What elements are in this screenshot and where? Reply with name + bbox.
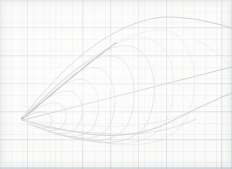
curve-lens-rib-2 xyxy=(22,103,66,131)
apex-point xyxy=(21,117,23,119)
sketch-canvas xyxy=(0,0,232,169)
curve-dark-chord-upper xyxy=(22,43,116,119)
curve-long-straight-chord xyxy=(23,67,232,120)
curve-lens-rib-5 xyxy=(22,68,115,139)
curve-cross-tie-mid xyxy=(30,107,200,126)
pencil-drawing xyxy=(0,0,232,169)
curve-tip-fold-right xyxy=(196,40,232,68)
curve-lower-envelope-curve xyxy=(22,93,232,135)
stroke-group xyxy=(21,17,232,145)
